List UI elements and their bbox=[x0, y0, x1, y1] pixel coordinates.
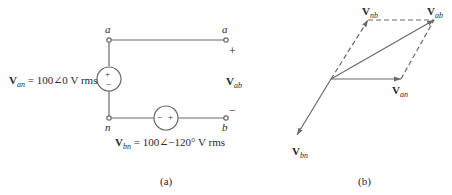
node-label-a-right: a bbox=[222, 24, 228, 35]
vab-minus-sign: − bbox=[229, 104, 236, 116]
van-polarity-plus: + bbox=[105, 70, 110, 79]
vbn-source-label: Vbn = 100∠−120° V rms bbox=[115, 137, 225, 148]
phasor-vbn bbox=[297, 79, 331, 135]
vab-terminal-label: Vab bbox=[226, 76, 242, 87]
terminal-n bbox=[107, 116, 111, 120]
terminal-a-right bbox=[224, 38, 228, 42]
vbn-polarity-minus: − bbox=[157, 113, 162, 122]
phasor-label-van: Van bbox=[392, 85, 408, 96]
caption-b: (b) bbox=[358, 176, 371, 187]
vab-plus-sign: + bbox=[229, 45, 236, 57]
phasor-vnb bbox=[331, 20, 368, 79]
node-label-b: b bbox=[222, 122, 228, 133]
phasor-diagram-b bbox=[297, 20, 434, 135]
terminal-b bbox=[224, 116, 228, 120]
phasor-vab bbox=[331, 20, 434, 79]
phasor-label-vnb: Vnb bbox=[362, 6, 378, 17]
node-label-n: n bbox=[105, 122, 111, 133]
vbn-polarity-plus: + bbox=[168, 113, 173, 122]
terminal-a-left bbox=[107, 38, 111, 42]
node-label-a-left: a bbox=[105, 24, 111, 35]
circuit-a bbox=[97, 38, 228, 130]
van-polarity-minus: − bbox=[106, 80, 111, 89]
phasor-label-vbn: Vbn bbox=[292, 146, 308, 157]
phasor-label-vab: Vab bbox=[427, 6, 443, 17]
caption-a: (a) bbox=[160, 176, 172, 187]
van-source-label: Van = 100∠0 V rms bbox=[9, 75, 97, 86]
